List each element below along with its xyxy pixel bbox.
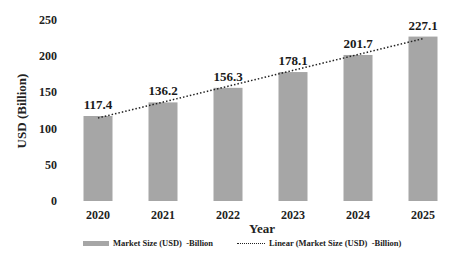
bar-series: [84, 37, 438, 201]
legend-item-trendline: Linear (Market Size (USD) -Billion): [237, 238, 401, 248]
legend-line-label: Linear (Market Size (USD) -Billion): [269, 238, 401, 248]
data-label: 136.2: [148, 83, 177, 98]
y-tick-label: 0: [51, 194, 57, 208]
dotted-line-icon: [237, 243, 265, 244]
chart: 050100150200250 117.4136.2156.3178.1201.…: [0, 0, 467, 269]
y-tick-label: 50: [45, 158, 57, 172]
x-axis-title: Year: [249, 221, 275, 236]
legend-item-bar: Market Size (USD) -Billion: [83, 238, 213, 248]
y-tick-label: 100: [39, 122, 57, 136]
y-tick-label: 150: [39, 85, 57, 99]
data-label: 117.4: [84, 97, 113, 112]
x-tick-label: 2020: [86, 208, 110, 222]
legend-bar-label: Market Size (USD) -Billion: [113, 238, 213, 248]
x-tick-label: 2023: [281, 208, 305, 222]
bar: [149, 102, 178, 201]
data-labels: 117.4136.2156.3178.1201.7227.1: [84, 18, 438, 112]
bar: [84, 116, 113, 201]
y-axis-ticks: 050100150200250: [39, 13, 57, 208]
data-label: 156.3: [213, 69, 243, 84]
data-label: 201.7: [343, 36, 373, 51]
x-axis-ticks: 202020212022202320242025: [86, 208, 435, 222]
x-tick-label: 2022: [216, 208, 240, 222]
y-axis-title: USD (Billion): [14, 74, 29, 149]
y-tick-label: 200: [39, 49, 57, 63]
data-label: 178.1: [278, 53, 307, 68]
x-tick-label: 2024: [346, 208, 370, 222]
legend: Market Size (USD) -Billion Linear (Marke…: [83, 238, 425, 248]
bar: [409, 37, 438, 201]
bar: [344, 55, 373, 201]
bar-swatch-icon: [83, 241, 109, 246]
data-label: 227.1: [408, 18, 437, 33]
bar: [214, 88, 243, 201]
x-tick-label: 2025: [411, 208, 435, 222]
trendline: [98, 39, 423, 118]
bar: [279, 72, 308, 201]
y-tick-label: 250: [39, 13, 57, 27]
trendline-path: [98, 39, 423, 118]
x-tick-label: 2021: [151, 208, 175, 222]
